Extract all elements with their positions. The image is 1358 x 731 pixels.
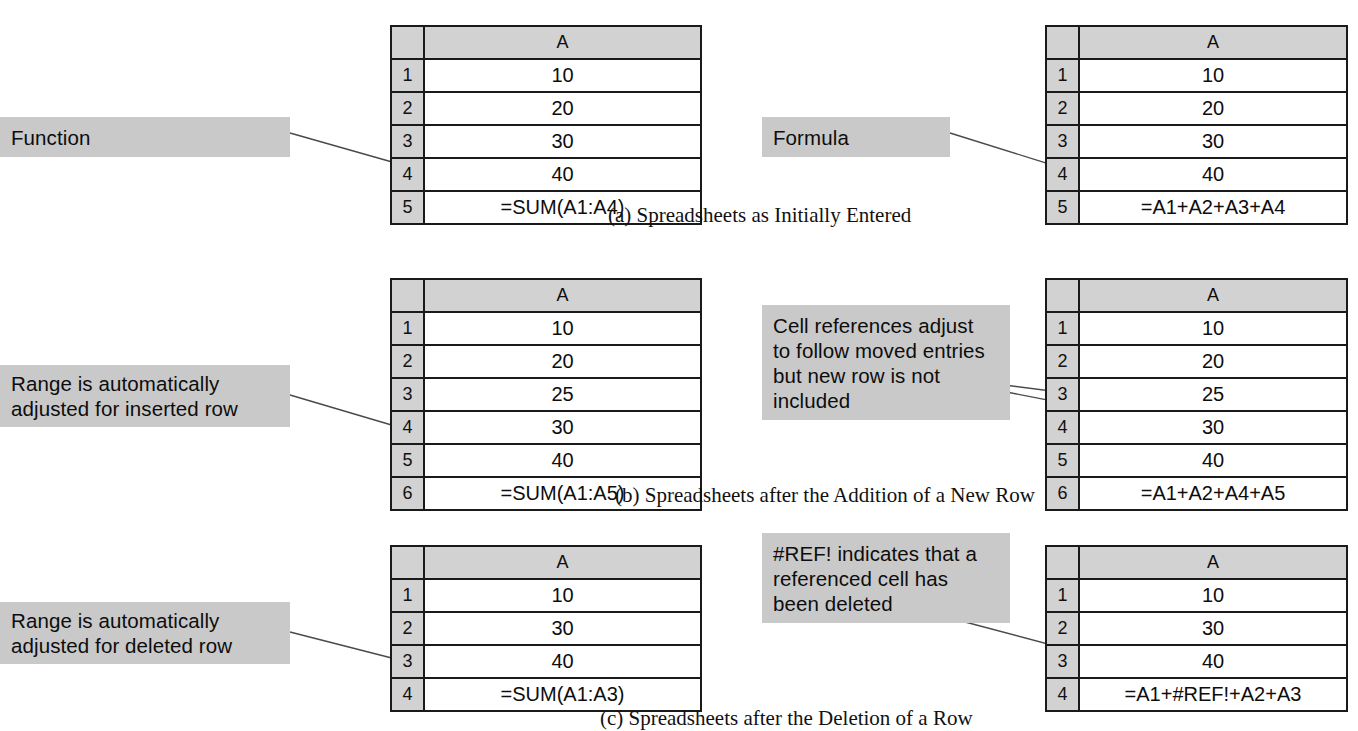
cell-value[interactable]: 10: [1080, 580, 1346, 611]
table-row: 6 =A1+A2+A4+A5: [1047, 478, 1346, 509]
panel-caption-a: (a) Spreadsheets as Initially Entered: [608, 203, 911, 228]
table-row: 3 30: [392, 126, 700, 159]
cell-value[interactable]: 40: [1080, 445, 1346, 476]
panel-caption-c: (c) Spreadsheets after the Deletion of a…: [600, 706, 973, 731]
cell-value[interactable]: 30: [425, 613, 700, 644]
row-number: 4: [392, 679, 425, 710]
table-row: 1 10: [392, 580, 700, 613]
row-number: 5: [392, 445, 425, 476]
table-row: 5 40: [392, 445, 700, 478]
cell-formula[interactable]: =A1+A2+A3+A4: [1080, 192, 1346, 223]
table-row: 2 30: [1047, 613, 1346, 646]
row-number: 2: [392, 613, 425, 644]
row-number: 1: [1047, 313, 1080, 344]
table-row: 5 40: [1047, 445, 1346, 478]
column-header-a: A: [1080, 547, 1346, 578]
callout-b-left-line-1: Range is automatically: [0, 371, 290, 396]
callout-c-right-line-2: referenced cell has: [762, 566, 1010, 591]
column-header-a: A: [425, 547, 700, 578]
cell-value[interactable]: 20: [425, 346, 700, 377]
table-row: 3 40: [392, 646, 700, 679]
row-number: 3: [392, 379, 425, 410]
corner-cell: [392, 280, 425, 311]
corner-cell: [1047, 547, 1080, 578]
row-number: 6: [1047, 478, 1080, 509]
sheet-a-right: A 1 10 2 20 3 30 4 40 5 =A1+A2+A3+A4: [1045, 25, 1348, 225]
row-number: 5: [392, 192, 425, 223]
cell-value[interactable]: 40: [425, 159, 700, 190]
callout-b-right-line-3: but new row is not: [762, 363, 1010, 388]
row-number: 4: [1047, 679, 1080, 710]
row-number: 6: [392, 478, 425, 509]
cell-value[interactable]: 30: [1080, 412, 1346, 443]
sheet-header-row: A: [1047, 27, 1346, 60]
cell-value[interactable]: 40: [1080, 159, 1346, 190]
corner-cell: [392, 547, 425, 578]
cell-value[interactable]: 40: [1080, 646, 1346, 677]
row-number: 4: [1047, 412, 1080, 443]
cell-value[interactable]: 10: [1080, 60, 1346, 91]
table-row: 1 10: [1047, 313, 1346, 346]
table-row: 3 40: [1047, 646, 1346, 679]
cell-value[interactable]: 30: [1080, 126, 1346, 157]
row-number: 3: [392, 646, 425, 677]
sheet-header-row: A: [392, 547, 700, 580]
table-row: 5 =A1+A2+A3+A4: [1047, 192, 1346, 223]
sheet-c-left: A 1 10 2 30 3 40 4 =SUM(A1:A3): [390, 545, 702, 712]
cell-value[interactable]: 20: [1080, 346, 1346, 377]
cell-value[interactable]: 10: [425, 60, 700, 91]
sheet-b-left: A 1 10 2 20 3 25 4 30 5 40 6 =SUM(A1:A5): [390, 278, 702, 511]
sheet-header-row: A: [1047, 280, 1346, 313]
cell-value[interactable]: 40: [425, 646, 700, 677]
row-number: 2: [392, 93, 425, 124]
row-number: 4: [392, 159, 425, 190]
callout-a-right: Formula: [762, 117, 950, 157]
callout-c-left-line-2: adjusted for deleted row: [0, 633, 290, 658]
row-number: 3: [1047, 646, 1080, 677]
cell-value[interactable]: 20: [425, 93, 700, 124]
cell-value[interactable]: 25: [1080, 379, 1346, 410]
cell-formula[interactable]: =A1+#REF!+A2+A3: [1080, 679, 1346, 710]
cell-formula[interactable]: =A1+A2+A4+A5: [1080, 478, 1346, 509]
callout-a-right-line-1: Formula: [762, 125, 950, 150]
sheet-a-left: A 1 10 2 20 3 30 4 40 5 =SUM(A1:A4): [390, 25, 702, 225]
table-row: 2 20: [392, 346, 700, 379]
callout-c-right-line-3: been deleted: [762, 591, 1010, 616]
callout-b-right-line-1: Cell references adjust: [762, 313, 1010, 338]
cell-value[interactable]: 20: [1080, 93, 1346, 124]
sheet-header-row: A: [1047, 547, 1346, 580]
callout-b-right-line-2: to follow moved entries: [762, 338, 1010, 363]
table-row: 1 10: [1047, 580, 1346, 613]
row-number: 1: [1047, 580, 1080, 611]
cell-value[interactable]: 30: [425, 126, 700, 157]
sheet-header-row: A: [392, 280, 700, 313]
table-row: 1 10: [392, 313, 700, 346]
corner-cell: [1047, 280, 1080, 311]
callout-c-right-line-1: #REF! indicates that a: [762, 541, 1010, 566]
callout-c-left: Range is automatically adjusted for dele…: [0, 602, 290, 664]
row-number: 3: [1047, 379, 1080, 410]
row-number: 1: [392, 60, 425, 91]
callout-b-right: Cell references adjust to follow moved e…: [762, 305, 1010, 420]
table-row: 1 10: [392, 60, 700, 93]
callout-a-left-line-1: Function: [0, 125, 290, 150]
row-number: 2: [1047, 346, 1080, 377]
cell-value[interactable]: 40: [425, 445, 700, 476]
cell-value[interactable]: 30: [425, 412, 700, 443]
cell-value[interactable]: 30: [1080, 613, 1346, 644]
table-row: 4 30: [1047, 412, 1346, 445]
row-number: 3: [392, 126, 425, 157]
cell-value[interactable]: 10: [425, 580, 700, 611]
column-header-a: A: [425, 280, 700, 311]
corner-cell: [1047, 27, 1080, 58]
row-number: 1: [392, 313, 425, 344]
panel-caption-b: (b) Spreadsheets after the Addition of a…: [615, 483, 1035, 508]
row-number: 2: [392, 346, 425, 377]
row-number: 2: [1047, 93, 1080, 124]
cell-value[interactable]: 25: [425, 379, 700, 410]
cell-value[interactable]: 10: [425, 313, 700, 344]
table-row: 2 30: [392, 613, 700, 646]
table-row: 2 20: [1047, 346, 1346, 379]
cell-value[interactable]: 10: [1080, 313, 1346, 344]
table-row: 4 =A1+#REF!+A2+A3: [1047, 679, 1346, 710]
